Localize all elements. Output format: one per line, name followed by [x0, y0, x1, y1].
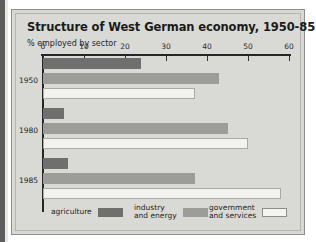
bar-group-1950: 1950: [43, 58, 289, 103]
bar-1985-government-and-services: [43, 188, 281, 199]
x-tick-label-60: 60: [284, 42, 294, 51]
bar-1950-agriculture: [43, 58, 141, 69]
plot-area: 0102030405060 195019801985: [43, 54, 289, 206]
bar-1950-industry-and-energy: [43, 73, 219, 84]
scanned-page: Structure of West German economy, 1950-8…: [0, 0, 316, 242]
x-tick-label-20: 20: [120, 42, 130, 51]
white-swatch: [262, 208, 287, 217]
mid-gray-swatch: [183, 208, 208, 217]
legend-label: industry and energy: [134, 204, 177, 221]
x-tick-label-0: 0: [41, 42, 46, 51]
chart-legend: agricultureindustry and energygovernment…: [27, 201, 295, 225]
category-label-1985: 1985: [19, 176, 38, 185]
bar-1980-agriculture: [43, 108, 64, 119]
legend-item-agriculture[interactable]: agriculture: [51, 201, 123, 223]
bar-1980-industry-and-energy: [43, 123, 228, 134]
dark-gray-swatch: [98, 208, 123, 217]
bar-1985-industry-and-energy: [43, 173, 195, 184]
bar-1985-agriculture: [43, 158, 68, 169]
chart-figure-inner-border: Structure of West German economy, 1950-8…: [15, 13, 301, 231]
x-tick-label-30: 30: [161, 42, 171, 51]
chart-figure: Structure of West German economy, 1950-8…: [11, 9, 305, 235]
category-label-1950: 1950: [19, 76, 38, 85]
chart-title: Structure of West German economy, 1950-8…: [27, 20, 315, 34]
x-tick-mark-60: [289, 56, 290, 61]
x-tick-label-40: 40: [202, 42, 212, 51]
bar-group-1980: 1980: [43, 108, 289, 153]
x-tick-label-50: 50: [243, 42, 253, 51]
legend-label: agriculture: [51, 208, 92, 217]
legend-label: government and services: [209, 204, 256, 221]
legend-item-industry-and-energy[interactable]: industry and energy: [134, 201, 208, 223]
category-label-1980: 1980: [19, 126, 38, 135]
bar-1950-government-and-services: [43, 88, 195, 99]
x-tick-label-10: 10: [79, 42, 89, 51]
bar-1980-government-and-services: [43, 138, 248, 149]
page-spine-highlight: [5, 0, 8, 242]
bar-group-1985: 1985: [43, 158, 289, 203]
legend-item-government-and-services[interactable]: government and services: [209, 201, 287, 223]
